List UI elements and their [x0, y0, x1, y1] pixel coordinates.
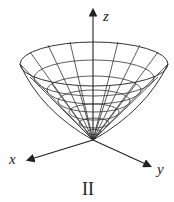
- x-axis: [28, 140, 93, 160]
- y-axis-label: y: [157, 162, 164, 177]
- z-axis-label: z: [103, 9, 109, 24]
- y-axis: [93, 140, 150, 166]
- x-axis-label: x: [9, 152, 16, 167]
- cone-surface: [20, 42, 168, 140]
- cone-diagram: [0, 0, 174, 202]
- figure-caption: II: [82, 180, 94, 198]
